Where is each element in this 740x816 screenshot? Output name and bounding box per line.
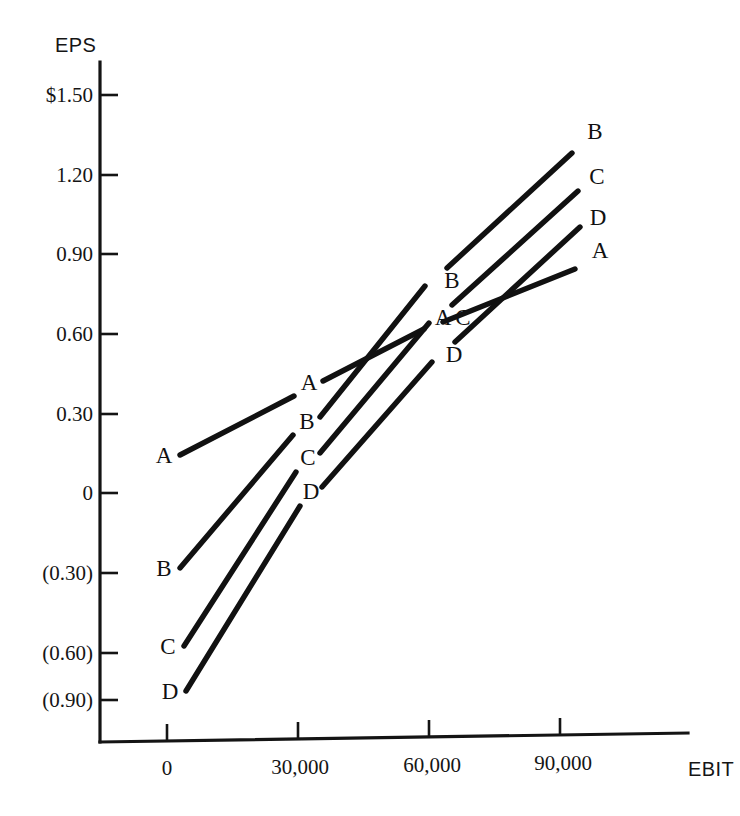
y-tick-label-1: 1.20 [56,163,93,187]
point-label-c-x30000: C [300,445,315,470]
series-d-seg-1 [186,506,300,691]
point-labels-x0: A B C D [156,443,179,704]
point-label-a-x0: A [156,443,173,468]
point-label-a-x60000: A [435,305,452,330]
point-labels-x30000: A B C D [299,370,319,504]
series-a-seg-1 [180,396,294,455]
point-label-c-x0: C [160,634,175,659]
x-tick-label-3: 90,000 [534,751,592,775]
point-label-d-x30000: D [303,479,320,504]
y-tick-label-3: 0.60 [56,322,93,346]
series-d [186,227,580,691]
x-tick-label-1: 30,000 [271,755,329,779]
point-label-c-x90000: C [589,164,604,189]
y-tick-label-8: (0.90) [42,688,93,712]
x-tick-label-0: 0 [162,756,173,780]
point-label-a-x30000: A [301,370,318,395]
point-label-c-x60000: C [455,305,470,330]
point-label-b-x0: B [156,556,171,581]
y-tick-label-4: 0.30 [56,402,93,426]
chart-canvas: $1.50 1.20 0.90 0.60 0.30 0 (0.30) (0.60… [0,0,740,816]
y-tick-labels: $1.50 1.20 0.90 0.60 0.30 0 (0.30) (0.60… [42,83,93,712]
x-axis-line [100,733,688,742]
x-tick-label-2: 60,000 [403,753,461,777]
y-tick-marks [100,95,118,700]
x-tick-labels: 0 30,000 60,000 90,000 [162,751,592,780]
x-axis-title: EBIT [688,758,734,780]
series-b [180,153,572,568]
series-a-seg-2 [323,329,424,381]
point-label-d-x60000: D [446,342,463,367]
y-tick-label-6: (0.30) [42,561,93,585]
point-labels-x90000: B C D A [587,119,608,263]
point-label-d-x90000: D [590,205,607,230]
point-label-d-x0: D [162,679,179,704]
series-d-seg-2 [322,362,432,487]
point-label-b-x60000: B [444,268,459,293]
y-tick-label-5: 0 [83,481,94,505]
y-tick-label-0: $1.50 [46,83,93,107]
y-axis-title: EPS [55,34,96,56]
ebit-eps-chart: $1.50 1.20 0.90 0.60 0.30 0 (0.30) (0.60… [0,0,740,816]
point-label-a-x90000: A [592,238,609,263]
y-tick-label-2: 0.90 [56,242,93,266]
y-tick-label-7: (0.60) [42,641,93,665]
point-label-b-x30000: B [299,409,314,434]
point-label-b-x90000: B [587,119,602,144]
series-b-seg-2 [320,286,425,417]
